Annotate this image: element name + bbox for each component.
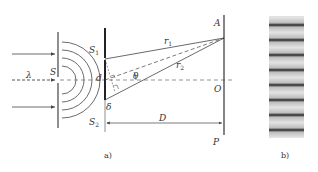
- wavefront-arc-2: [62, 58, 84, 102]
- label-lambda: λ: [25, 70, 32, 80]
- label-a: A: [213, 18, 221, 28]
- fringe-1: [269, 18, 304, 32]
- label-s1: S1: [89, 45, 99, 56]
- label-d: d: [96, 73, 102, 83]
- label-p: P: [212, 137, 220, 147]
- ray-r2: [105, 38, 224, 100]
- fringe-3: [269, 48, 304, 62]
- fringe-6: [269, 93, 304, 107]
- fringe-7: [269, 108, 304, 122]
- label-source: S: [50, 67, 56, 77]
- label-r2: r2: [176, 60, 184, 71]
- right-angle-mark-1: [113, 85, 119, 89]
- label-r1: r1: [164, 36, 172, 47]
- fringe-5: [269, 78, 304, 92]
- panel-a: λ S S1 S2 d δ θ r1 r2 A O P D a): [12, 15, 232, 160]
- panel-b: b): [269, 16, 304, 160]
- label-delta: δ: [106, 102, 111, 112]
- double-slit-diagram: λ S S1 S2 d δ θ r1 r2 A O P D a) b): [0, 0, 318, 172]
- perpendicular-foot: [105, 59, 115, 92]
- fringe-2: [269, 33, 304, 47]
- caption-a: a): [104, 151, 112, 160]
- fringe-8: [269, 123, 304, 137]
- label-s2: S2: [89, 117, 99, 128]
- fringe-4: [269, 63, 304, 77]
- label-o: O: [214, 84, 222, 94]
- label-d-distance: D: [158, 113, 166, 123]
- label-theta: θ: [133, 71, 139, 81]
- caption-b: b): [281, 151, 289, 160]
